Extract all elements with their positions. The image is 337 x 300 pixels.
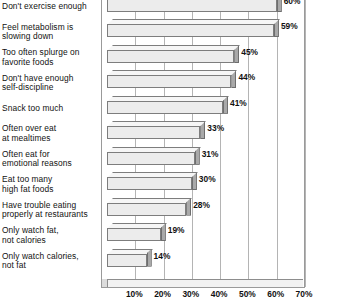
bar-front-face [107, 75, 231, 88]
gridline-10 [135, 0, 136, 287]
bar-front-face [107, 177, 192, 190]
category-label: Snack too much [2, 104, 97, 114]
bar-front-face [107, 228, 161, 241]
chart-floor [102, 279, 303, 287]
gridline-50 [248, 0, 249, 287]
bar[interactable] [107, 75, 231, 88]
x-tick-label: 30% [182, 289, 199, 299]
bar-value-label: 14% [154, 251, 171, 261]
gridline-70 [305, 0, 306, 287]
category-label: Don't have enough self-discipline [2, 74, 97, 93]
bar-value-label: 28% [193, 200, 210, 210]
bar[interactable] [107, 254, 147, 267]
bar[interactable] [107, 152, 195, 165]
bar-value-label: 31% [202, 149, 219, 159]
gridline-20 [164, 0, 165, 287]
category-label: Eat too many high fat foods [2, 175, 97, 194]
x-tick-label: 10% [126, 289, 143, 299]
bar-value-label: 30% [199, 174, 216, 184]
bar-chart: Don't exercise enoughFeel metabolism is … [0, 0, 337, 300]
category-label: Only watch calories, not fat [2, 252, 97, 271]
x-axis: 10%20%30%40%50%60%70% [97, 288, 305, 300]
x-tick-label: 70% [296, 289, 313, 299]
bar-value-label: 19% [168, 225, 185, 235]
category-label: Often eat for emotional reasons [2, 150, 97, 169]
bar-value-label: 60% [284, 0, 301, 6]
plot-frame: 60%59%45%44%41%33%31%30%28%19%14% [101, 0, 305, 288]
category-label: Feel metabolism is slowing down [2, 23, 97, 42]
bar[interactable] [107, 50, 234, 63]
x-tick-label: 60% [267, 289, 284, 299]
category-label: Don't exercise enough [2, 2, 97, 12]
bar-front-face [107, 152, 195, 165]
category-label: Only watch fat, not calories [2, 226, 97, 245]
category-label: Have trouble eating properly at restaura… [2, 201, 97, 220]
bar-value-label: 41% [230, 98, 247, 108]
plot-area: 60%59%45%44%41%33%31%30%28%19%14% [97, 0, 305, 288]
bar-front-face [107, 254, 147, 267]
category-label: Too often splurge on favorite foods [2, 48, 97, 67]
bar-front-face [107, 24, 274, 37]
bar[interactable] [107, 0, 277, 12]
gridline-30 [192, 0, 193, 287]
gridline-40 [220, 0, 221, 287]
category-label-column: Don't exercise enoughFeel metabolism is … [0, 0, 97, 300]
bar-front-face [107, 203, 186, 216]
x-tick-label: 50% [239, 289, 256, 299]
bar[interactable] [107, 126, 200, 139]
x-tick-label: 20% [154, 289, 171, 299]
bar-value-label: 44% [238, 72, 255, 82]
bar-front-face [107, 50, 234, 63]
bar-value-label: 45% [241, 47, 258, 57]
bar[interactable] [107, 101, 223, 114]
bar-end-cap [277, 0, 282, 12]
bar[interactable] [107, 228, 161, 241]
bar-front-face [107, 0, 277, 12]
bar-front-face [107, 126, 200, 139]
bar-value-label: 33% [207, 123, 224, 133]
bar-front-face [107, 101, 223, 114]
x-tick-label: 40% [211, 289, 228, 299]
bar[interactable] [107, 177, 192, 190]
bar[interactable] [107, 203, 186, 216]
category-label: Often over eat at mealtimes [2, 124, 97, 143]
bar[interactable] [107, 24, 274, 37]
gridline-60 [277, 0, 278, 287]
bar-value-label: 59% [281, 21, 298, 31]
